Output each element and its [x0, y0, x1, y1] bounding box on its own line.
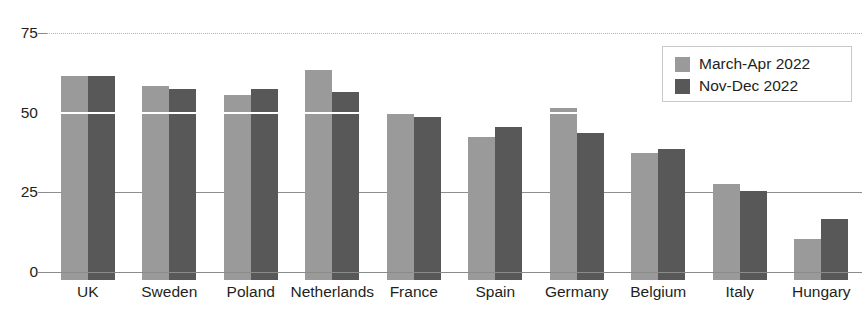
bar-hungary-series-0 — [794, 239, 821, 280]
bar-poland-series-0 — [224, 95, 251, 280]
bar-italy-series-1 — [740, 191, 767, 280]
bar-germany-series-0 — [550, 108, 577, 280]
bar-sweden-series-0 — [142, 86, 169, 280]
bar-uk-series-1 — [88, 76, 115, 280]
y-tick-mark-75 — [38, 33, 47, 34]
bar-sweden-series-1 — [169, 89, 196, 280]
legend-swatch-icon-1 — [675, 79, 690, 94]
bar-italy-series-0 — [713, 184, 740, 280]
bar-belgium-series-0 — [631, 153, 658, 280]
bar-netherlands-series-1 — [332, 92, 359, 280]
legend-swatch-icon-0 — [675, 57, 690, 72]
bar-hungary-series-1 — [821, 219, 848, 280]
bar-germany-series-1 — [577, 133, 604, 280]
bar-france-series-1 — [414, 117, 441, 280]
legend-label-0: March-Apr 2022 — [699, 56, 810, 72]
bar-belgium-series-1 — [658, 149, 685, 280]
y-axis: 7550250 — [0, 20, 38, 280]
y-tick-label-75: 75 — [4, 25, 38, 41]
axis-baseline — [39, 272, 862, 273]
legend-item-1[interactable]: Nov-Dec 2022 — [675, 75, 851, 97]
y-tick-label-50: 50 — [4, 105, 38, 121]
gridline-over-50 — [47, 112, 862, 114]
y-tick-mark-25 — [38, 192, 47, 193]
bar-poland-series-1 — [251, 89, 278, 280]
legend-item-0[interactable]: March-Apr 2022 — [675, 53, 851, 75]
y-tick-label-25: 25 — [4, 184, 38, 200]
x-label-hungary: Hungary — [773, 283, 867, 302]
legend-label-1: Nov-Dec 2022 — [699, 78, 798, 94]
chart-title-remnant — [0, 0, 867, 14]
bar-netherlands-series-0 — [305, 70, 332, 280]
y-tick-label-0: 0 — [4, 264, 38, 280]
bar-spain-series-1 — [495, 127, 522, 280]
bar-france-series-0 — [387, 114, 414, 280]
chart-legend: March-Apr 2022Nov-Dec 2022 — [662, 46, 852, 102]
bar-spain-series-0 — [468, 137, 495, 280]
x-axis-category-labels: UKSwedenPolandNetherlandsFranceSpainGerm… — [47, 283, 862, 313]
bar-chart: 7550250 UKSwedenPolandNetherlandsFranceS… — [0, 0, 867, 331]
bar-uk-series-0 — [61, 76, 88, 280]
